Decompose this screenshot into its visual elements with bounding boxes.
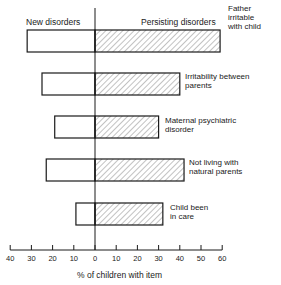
category-label: Not living with natural parents [189, 158, 242, 176]
category-label: Child been in care [170, 203, 208, 221]
x-tick-label: 60 [212, 254, 232, 263]
bar-new-disorders [76, 203, 95, 225]
bar-persisting-disorders [95, 73, 180, 95]
left-header: New disorders [26, 17, 80, 27]
bar-persisting-disorders [95, 30, 220, 52]
category-label: Father irritable with child [228, 4, 261, 31]
x-tick-label: 40 [0, 254, 20, 263]
category-label: Irritability between parents [185, 72, 249, 90]
x-axis-label: % of children with item [77, 270, 162, 280]
x-tick-label: 10 [106, 254, 126, 263]
bar-persisting-disorders [95, 203, 163, 225]
category-label: Maternal psychiatric disorder [165, 116, 236, 134]
x-tick-label: 20 [43, 254, 63, 263]
bar-new-disorders [27, 30, 95, 52]
bar-new-disorders [46, 159, 95, 181]
x-tick-label: 40 [170, 254, 190, 263]
bar-persisting-disorders [95, 159, 184, 181]
x-tick-label: 30 [21, 254, 41, 263]
right-header: Persisting disorders [141, 17, 216, 27]
bar-new-disorders [42, 73, 95, 95]
x-tick-label: 0 [85, 254, 105, 263]
x-tick-label: 50 [191, 254, 211, 263]
bar-persisting-disorders [95, 116, 159, 138]
chart-canvas [0, 0, 281, 285]
x-tick-label: 20 [127, 254, 147, 263]
bar-new-disorders [55, 116, 95, 138]
x-tick-label: 30 [149, 254, 169, 263]
x-tick-label: 10 [64, 254, 84, 263]
